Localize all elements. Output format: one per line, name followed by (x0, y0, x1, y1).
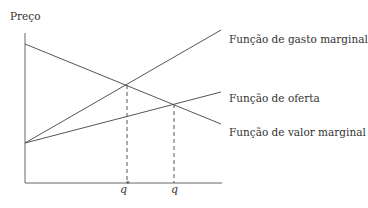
marginal-expenditure-curve (25, 30, 221, 143)
marginal-value-curve (25, 44, 221, 124)
q-star-superscript: * (126, 180, 130, 188)
q-label: q (171, 183, 178, 196)
supply-label: Função de oferta (229, 92, 320, 104)
supply-curve (25, 92, 221, 143)
marginal-expenditure-label: Função de gasto marginal (229, 33, 368, 45)
marginal-value-label: Função de valor marginal (229, 126, 366, 138)
y-axis-label: Preço (10, 10, 41, 22)
